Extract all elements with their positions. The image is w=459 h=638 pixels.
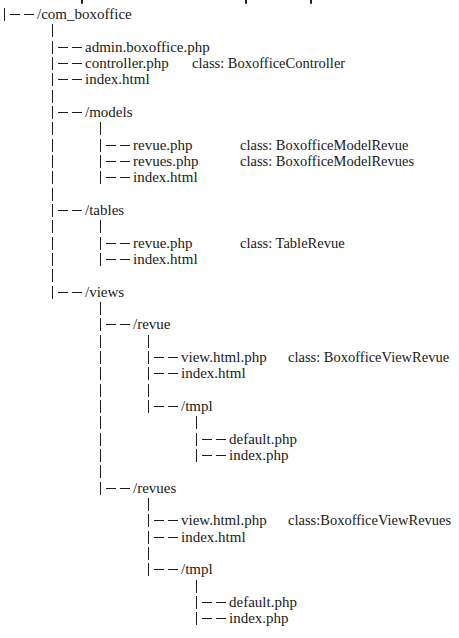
tree-connector-pipe	[52, 269, 53, 282]
tree-connector-pipe	[52, 24, 53, 37]
tree-connector-pipe	[148, 367, 149, 380]
directory-tree: /com_boxoffice admin.boxoffice.php contr…	[0, 0, 459, 638]
tree-connector-dashes	[154, 537, 180, 538]
tree-connector-pipe	[148, 498, 149, 511]
tree-connector-pipe	[100, 139, 101, 152]
tree-connector-pipe	[52, 90, 53, 103]
tree-connector-dashes	[58, 210, 84, 211]
tree-connector-pipe	[148, 563, 149, 576]
tree-connector-dashes	[106, 259, 132, 260]
tree-connector-pipe	[100, 465, 101, 478]
tree-connector-dashes	[154, 357, 180, 358]
file-label: index.html	[181, 529, 246, 545]
tree-connector-dashes	[106, 488, 132, 489]
tree-connector-dashes	[58, 292, 84, 293]
tree-connector-pipe	[196, 416, 197, 429]
tree-connector-dashes	[58, 47, 84, 48]
tree-connector-dashes	[154, 373, 180, 374]
file-label: revues.php	[133, 153, 198, 169]
tree-connector-pipe	[52, 41, 53, 54]
file-label: index.html	[133, 169, 198, 185]
tree-connector-dashes	[106, 145, 132, 146]
tree-connector-pipe	[100, 220, 101, 233]
class-annotation: class: BoxofficeController	[192, 55, 345, 71]
tree-connector-pipe	[148, 351, 149, 364]
tree-connector-pipe	[52, 155, 53, 168]
tree-connector-pipe	[148, 335, 149, 348]
file-label: revue.php	[133, 137, 193, 153]
tree-connector-pipe	[100, 400, 101, 413]
tree-connector-pipe	[52, 220, 53, 233]
folder-label: /models	[85, 104, 133, 120]
tree-connector-dashes	[106, 177, 132, 178]
folder-label: /tmpl	[181, 561, 213, 577]
class-annotation: class: TableRevue	[240, 235, 345, 251]
file-label: view.html.php	[181, 349, 267, 365]
class-annotation: class: BoxofficeModelRevues	[240, 153, 414, 169]
tree-connector-pipe	[52, 73, 53, 86]
tree-connector-dashes	[10, 14, 36, 15]
tree-connector-dashes	[58, 112, 84, 113]
tree-connector-pipe	[100, 171, 101, 184]
tree-connector-dashes	[106, 161, 132, 162]
tree-connector-pipe	[196, 612, 197, 625]
tree-connector-pipe	[100, 318, 101, 331]
folder-label: /revues	[133, 480, 176, 496]
file-label: index.html	[85, 71, 150, 87]
file-label: revue.php	[133, 235, 193, 251]
folder-label: /tmpl	[181, 398, 213, 414]
folder-label: /revue	[133, 316, 170, 332]
file-label: admin.boxoffice.php	[85, 39, 210, 55]
class-annotation: class: BoxofficeViewRevue	[288, 349, 449, 365]
tree-connector-dashes	[154, 569, 180, 570]
file-label: index.php	[229, 610, 289, 626]
tree-connector-dashes	[106, 324, 132, 325]
tree-connector-dashes	[106, 243, 132, 244]
file-label: index.html	[133, 251, 198, 267]
file-label: view.html.php	[181, 512, 267, 528]
tree-connector-pipe	[148, 384, 149, 397]
folder-label: /views	[85, 284, 124, 300]
tree-connector-pipe	[100, 302, 101, 315]
tree-connector-pipe	[100, 449, 101, 462]
class-annotation: class:BoxofficeViewRevues	[288, 512, 451, 528]
tree-connector-pipe	[148, 400, 149, 413]
tree-connector-pipe	[100, 237, 101, 250]
class-annotation: class: BoxofficeModelRevue	[240, 137, 408, 153]
tree-connector-pipe	[100, 416, 101, 429]
tree-connector-pipe	[52, 139, 53, 152]
tree-connector-pipe	[148, 547, 149, 560]
tree-connector-dashes	[202, 618, 228, 619]
tree-connector-dashes	[202, 455, 228, 456]
tree-connector-pipe	[52, 253, 53, 266]
tree-connector-pipe	[52, 204, 53, 217]
tree-connector-pipe	[100, 351, 101, 364]
tree-connector-pipe	[100, 367, 101, 380]
file-label: index.html	[181, 365, 246, 381]
tree-connector-dashes	[202, 602, 228, 603]
tree-connector-dashes	[58, 63, 84, 64]
tree-connector-pipe	[100, 155, 101, 168]
tree-connector-pipe	[100, 335, 101, 348]
file-label: default.php	[229, 431, 297, 447]
tree-connector-pipe	[52, 171, 53, 184]
tree-connector-pipe	[196, 433, 197, 446]
tree-connector-pipe	[52, 286, 53, 299]
tree-connector-pipe	[52, 237, 53, 250]
tree-connector-dashes	[202, 439, 228, 440]
tree-connector-pipe	[52, 188, 53, 201]
tree-connector-pipe	[100, 122, 101, 135]
tree-connector-pipe	[52, 57, 53, 70]
tree-connector-pipe	[100, 433, 101, 446]
tree-connector-pipe	[100, 253, 101, 266]
folder-label: /com_boxoffice	[37, 6, 132, 22]
tree-connector-pipe	[148, 514, 149, 527]
folder-label: /tables	[85, 202, 124, 218]
tree-connector-dashes	[58, 79, 84, 80]
tree-connector-pipe	[196, 580, 197, 593]
tree-connector-pipe	[196, 596, 197, 609]
tree-connector-pipe	[52, 106, 53, 119]
tree-connector-dashes	[154, 406, 180, 407]
file-label: default.php	[229, 594, 297, 610]
file-label: index.php	[229, 447, 289, 463]
